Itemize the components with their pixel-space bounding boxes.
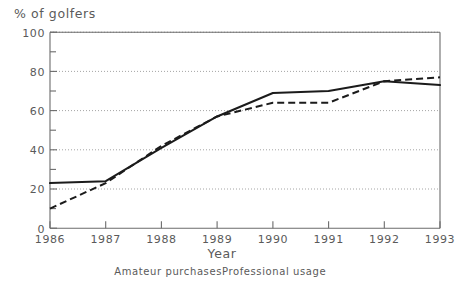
x-tick-label-1990: 1990 <box>258 233 288 246</box>
plot-frame <box>50 32 440 228</box>
y-tick-label-20: 20 <box>30 183 45 196</box>
y-tick-label-100: 100 <box>22 27 45 40</box>
x-tick-label-1993: 1993 <box>425 233 455 246</box>
x-tick-label-1992: 1992 <box>369 233 399 246</box>
series-amateur-purchases <box>50 81 440 183</box>
legend-item-professional-usage: Professional usage <box>222 266 326 277</box>
x-tick-labels: 1986 1987 1988 1989 1990 1991 1992 1993 <box>35 233 455 246</box>
line-chart: % of golfers 100 80 60 40 20 0 1986 1987… <box>0 0 470 282</box>
x-tick-label-1989: 1989 <box>202 233 232 246</box>
x-axis-ticks <box>50 221 440 228</box>
x-tick-label-1986: 1986 <box>35 233 65 246</box>
y-tick-label-80: 80 <box>30 66 45 79</box>
y-tick-labels: 100 80 60 40 20 0 <box>22 27 45 236</box>
x-axis-title: Year <box>207 246 237 261</box>
gridlines <box>50 32 440 189</box>
legend: Amateur purchases Professional usage <box>114 266 326 277</box>
x-tick-label-1987: 1987 <box>90 233 120 246</box>
chart-title: % of golfers <box>14 6 96 21</box>
legend-item-amateur-purchases: Amateur purchases <box>114 266 222 277</box>
y-tick-label-60: 60 <box>30 105 45 118</box>
x-tick-label-1988: 1988 <box>146 233 176 246</box>
y-axis-ticks <box>50 32 57 228</box>
chart-container: % of golfers 100 80 60 40 20 0 1986 1987… <box>0 0 470 282</box>
y-tick-label-40: 40 <box>30 144 45 157</box>
x-tick-label-1991: 1991 <box>313 233 343 246</box>
